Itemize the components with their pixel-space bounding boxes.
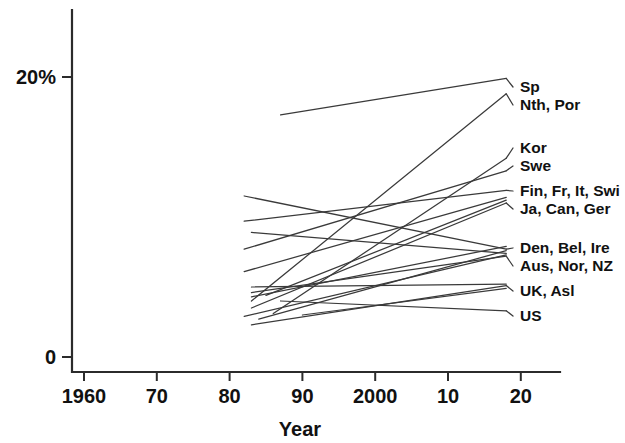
series-label: UK, Asl xyxy=(520,282,575,299)
series-label: Den, Bel, Ire xyxy=(520,239,610,256)
x-tick-label: 20 xyxy=(510,385,532,407)
series-label: Fin, Fr, It, Swi xyxy=(520,182,620,199)
line-chart: 196070809020001020 020% Year SpNth, PorK… xyxy=(0,0,625,443)
chart-canvas: 196070809020001020 020% Year SpNth, PorK… xyxy=(0,0,625,443)
series-label: Kor xyxy=(520,139,547,156)
x-tick-label: 2000 xyxy=(353,385,398,407)
x-tick-label: 80 xyxy=(218,385,240,407)
series-label: Ja, Can, Ger xyxy=(520,200,610,217)
chart-background xyxy=(0,0,625,443)
leader-line xyxy=(506,190,513,191)
x-tick-label: 1960 xyxy=(62,385,107,407)
x-tick-label: 70 xyxy=(146,385,168,407)
y-tick-label: 0 xyxy=(45,346,56,368)
series-label: US xyxy=(520,307,542,324)
series-label: Aus, Nor, NZ xyxy=(520,257,614,274)
series-label: Nth, Por xyxy=(520,96,580,113)
series-label: Sp xyxy=(520,78,540,95)
x-tick-label: 90 xyxy=(291,385,313,407)
series-label: Swe xyxy=(520,157,551,174)
x-axis-title: Year xyxy=(279,418,321,440)
y-tick-label: 20% xyxy=(16,66,56,88)
x-tick-label: 10 xyxy=(437,385,459,407)
